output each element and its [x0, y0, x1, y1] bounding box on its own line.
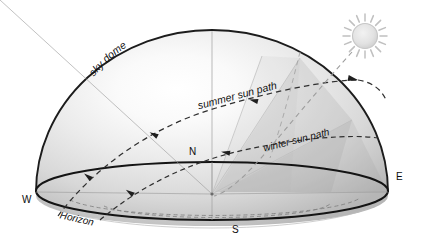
base-center-point [210, 192, 213, 195]
sky-dome-diagram: sky dome summer sun path winter sun path… [0, 0, 425, 246]
label-south: S [232, 224, 239, 235]
summer-path-arrow-east [347, 75, 358, 83]
label-west: W [22, 194, 32, 205]
label-east: E [396, 171, 403, 182]
label-north: N [189, 146, 196, 157]
sun-icon [343, 14, 387, 58]
sun-disc-icon [353, 24, 378, 49]
